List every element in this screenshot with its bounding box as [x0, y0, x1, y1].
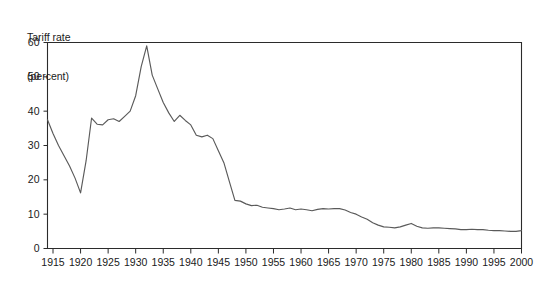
x-tick-label: 1940 — [179, 256, 203, 268]
x-tick-label: 1915 — [41, 256, 65, 268]
y-axis-title-line-1: Tariff rate — [27, 31, 71, 44]
y-tick-label: 20 — [28, 173, 40, 185]
x-tick-label: 1925 — [96, 256, 120, 268]
tariff-rate-line — [48, 46, 522, 231]
x-tick-label: 1975 — [372, 256, 396, 268]
plot-frame — [48, 43, 522, 249]
x-tick-label: 1920 — [69, 256, 93, 268]
chart-figure: Tariff rate (percent) 0102030405060 1915… — [0, 0, 551, 282]
y-tick-label: 0 — [34, 242, 40, 254]
x-tick-label: 1935 — [152, 256, 176, 268]
line-chart-plot: 0102030405060 19151920192519301935194019… — [0, 0, 551, 282]
y-tick-label: 30 — [28, 139, 40, 151]
x-tick-label: 1945 — [207, 256, 231, 268]
x-tick-label: 1990 — [455, 256, 479, 268]
y-axis-title: Tariff rate (percent) — [27, 5, 71, 109]
y-axis-title-line-2: (percent) — [27, 70, 71, 83]
x-tick-label: 2000 — [510, 256, 534, 268]
x-tick-label: 1930 — [124, 256, 148, 268]
x-tick-label: 1955 — [262, 256, 286, 268]
x-tick-label: 1950 — [234, 256, 258, 268]
y-tick-label: 10 — [28, 208, 40, 220]
x-tick-label: 1960 — [289, 256, 313, 268]
x-tick-label: 1995 — [482, 256, 506, 268]
x-tick-label: 1965 — [317, 256, 341, 268]
x-tick-marks — [53, 249, 521, 254]
x-tick-label: 1985 — [427, 256, 451, 268]
x-tick-label: 1980 — [400, 256, 424, 268]
x-tick-labels: 1915192019251930193519401945195019551960… — [41, 256, 533, 268]
x-tick-label: 1970 — [344, 256, 368, 268]
